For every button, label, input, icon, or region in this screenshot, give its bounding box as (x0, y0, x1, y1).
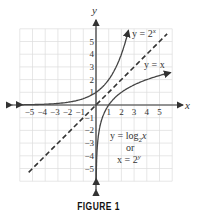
figure-caption: FIGURE 1 (15, 201, 182, 212)
inverse-label: x = 2y (117, 153, 142, 165)
identity-label: y = x (144, 59, 165, 70)
or-label: or (126, 142, 135, 153)
graph: −5−4−3−2−11234554321−1−2−3−4−5 y x y = 2… (0, 0, 197, 200)
exp-curve-label: y = 2x (132, 27, 157, 39)
svg-text:−5: −5 (25, 107, 35, 117)
svg-text:3: 3 (132, 107, 137, 117)
svg-text:−4: −4 (84, 151, 94, 161)
svg-text:−3: −3 (84, 138, 94, 148)
svg-text:4: 4 (90, 49, 95, 59)
svg-text:3: 3 (90, 62, 95, 72)
svg-text:2: 2 (90, 75, 95, 85)
svg-text:2: 2 (119, 107, 124, 117)
svg-text:5: 5 (157, 107, 162, 117)
svg-text:−2: −2 (84, 125, 94, 135)
x-axis-label: x (184, 99, 190, 111)
identity-line (29, 34, 167, 172)
svg-text:−3: −3 (50, 107, 60, 117)
svg-text:5: 5 (90, 37, 95, 47)
svg-text:−5: −5 (84, 164, 94, 174)
svg-text:−4: −4 (37, 107, 47, 117)
svg-text:4: 4 (145, 107, 150, 117)
svg-text:−2: −2 (63, 107, 73, 117)
y-axis-label: y (91, 4, 97, 16)
